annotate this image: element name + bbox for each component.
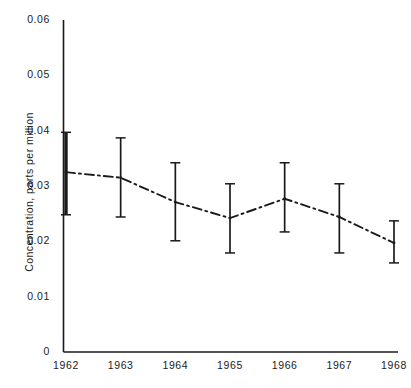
y-tick-label-0.05: 0.05: [8, 68, 50, 80]
data-point-1962: [65, 171, 68, 174]
data-point-1966: [283, 197, 286, 200]
error-bar-group: [61, 132, 399, 263]
x-tick-label-1966: 1966: [262, 359, 308, 371]
x-tick-label-1967: 1967: [316, 359, 362, 371]
data-point-1964: [174, 201, 177, 204]
x-tick-label-1968: 1968: [371, 359, 411, 371]
y-tick-label-0: 0: [8, 345, 50, 357]
data-point-1967: [338, 216, 341, 219]
x-tick-label-1962: 1962: [43, 359, 89, 371]
y-axis-title: Concentration, parts per million: [23, 92, 35, 292]
y-tick-label-0.06: 0.06: [8, 13, 50, 25]
x-tick-label-1965: 1965: [207, 359, 253, 371]
x-tick-label-1963: 1963: [98, 359, 144, 371]
data-point-1965: [229, 217, 232, 220]
data-point-1968: [393, 242, 396, 245]
plot-area: [0, 0, 411, 388]
chart-figure: 0.060.050.040.030.020.010 19621963196419…: [0, 0, 411, 388]
data-point-1963: [119, 176, 122, 179]
x-tick-label-1964: 1964: [152, 359, 198, 371]
